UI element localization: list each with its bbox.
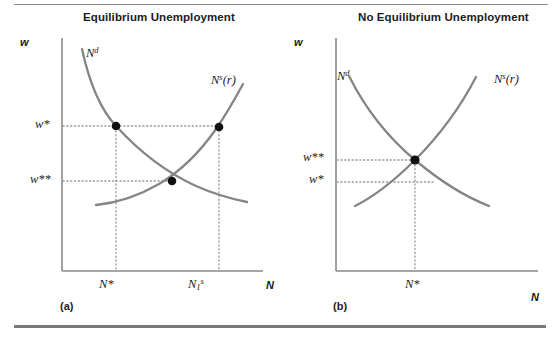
panel-b-plot bbox=[280, 0, 558, 300]
panel-a-marker-equilibrium bbox=[168, 177, 177, 186]
panel-a-supply-curve bbox=[96, 84, 243, 205]
panel-b-demand-curve bbox=[349, 76, 489, 206]
panel-a-marker-supply-at-w-star bbox=[215, 123, 224, 132]
panel-b-caption: (b) bbox=[333, 300, 347, 312]
panel-a-marker-demand-at-w-star bbox=[112, 122, 121, 131]
figure-canvas: Equilibrium Unemployment w N Nd Ns(r) w*… bbox=[0, 0, 558, 342]
panel-a-caption: (a) bbox=[60, 300, 73, 312]
panel-a-plot bbox=[0, 0, 290, 300]
figure-bottom-rule bbox=[14, 325, 546, 328]
panel-b-marker-equilibrium bbox=[410, 155, 419, 164]
panel-b-supply-curve bbox=[355, 77, 476, 206]
